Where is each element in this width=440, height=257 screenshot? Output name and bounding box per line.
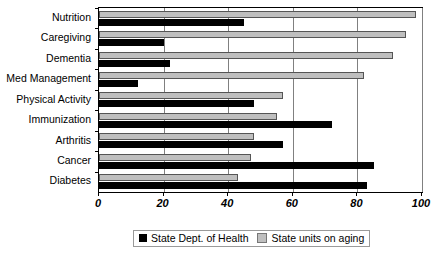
bar-group xyxy=(99,110,422,130)
legend-item-state-dept-of-health: State Dept. of Health xyxy=(139,233,248,244)
y-tick xyxy=(95,110,99,111)
bar-group xyxy=(99,8,422,28)
bar-state-dept-of-health xyxy=(99,141,283,148)
bar-state-units-on-aging xyxy=(99,52,393,59)
category-label: Diabetes xyxy=(0,171,96,191)
bar-group xyxy=(99,49,422,69)
legend: State Dept. of Health State units on agi… xyxy=(133,230,370,247)
legend-label: State units on aging xyxy=(271,233,364,244)
bar-state-units-on-aging xyxy=(99,174,238,181)
x-tick xyxy=(163,192,164,196)
y-tick xyxy=(95,151,99,152)
y-tick xyxy=(95,90,99,91)
bar-group xyxy=(99,151,422,171)
x-tick xyxy=(98,192,99,196)
plot-area xyxy=(98,7,423,193)
bar-state-dept-of-health xyxy=(99,121,332,128)
bar-state-units-on-aging xyxy=(99,31,406,38)
category-label: Physical Activity xyxy=(0,89,96,109)
legend-label: State Dept. of Health xyxy=(151,233,248,244)
bar-state-dept-of-health xyxy=(99,39,164,46)
bar-state-dept-of-health xyxy=(99,182,367,189)
bar-group xyxy=(99,90,422,110)
x-tick-label: 60 xyxy=(286,197,298,209)
gridline xyxy=(422,8,423,192)
x-tick-label: 100 xyxy=(412,197,430,209)
bar-state-units-on-aging xyxy=(99,92,283,99)
bar-state-dept-of-health xyxy=(99,80,138,87)
category-label: Dementia xyxy=(0,48,96,68)
x-axis: 020406080100 xyxy=(98,192,422,212)
legend-item-state-units-on-aging: State units on aging xyxy=(257,233,364,244)
category-label: Arthritis xyxy=(0,130,96,150)
legend-swatch-icon xyxy=(257,233,267,243)
bar-group xyxy=(99,69,422,89)
category-label: Nutrition xyxy=(0,7,96,27)
y-tick xyxy=(95,49,99,50)
bar-state-dept-of-health xyxy=(99,19,244,26)
x-tick-label: 20 xyxy=(156,197,168,209)
legend-swatch-icon xyxy=(139,234,147,242)
bar-rows xyxy=(99,8,422,192)
bar-chart: Nutrition Caregiving Dementia Med Manage… xyxy=(0,0,440,257)
bar-state-dept-of-health xyxy=(99,162,374,169)
bar-state-dept-of-health xyxy=(99,60,170,67)
y-tick xyxy=(95,69,99,70)
category-label: Med Management xyxy=(0,68,96,88)
bar-group xyxy=(99,131,422,151)
y-tick xyxy=(95,131,99,132)
x-tick xyxy=(356,192,357,196)
x-tick-label: 0 xyxy=(95,197,101,209)
bar-state-units-on-aging xyxy=(99,154,251,161)
x-tick xyxy=(227,192,228,196)
bar-state-dept-of-health xyxy=(99,100,254,107)
x-tick-label: 40 xyxy=(221,197,233,209)
bar-state-units-on-aging xyxy=(99,72,364,79)
category-label: Caregiving xyxy=(0,27,96,47)
category-label: Immunization xyxy=(0,109,96,129)
bar-group xyxy=(99,28,422,48)
bar-state-units-on-aging xyxy=(99,133,254,140)
y-tick xyxy=(95,172,99,173)
x-tick-label: 80 xyxy=(350,197,362,209)
bar-state-units-on-aging xyxy=(99,11,416,18)
category-label: Cancer xyxy=(0,150,96,170)
x-tick xyxy=(292,192,293,196)
bar-state-units-on-aging xyxy=(99,113,277,120)
category-axis: Nutrition Caregiving Dementia Med Manage… xyxy=(0,7,96,191)
y-tick xyxy=(95,8,99,9)
bar-group xyxy=(99,172,422,192)
x-tick xyxy=(421,192,422,196)
y-tick xyxy=(95,28,99,29)
